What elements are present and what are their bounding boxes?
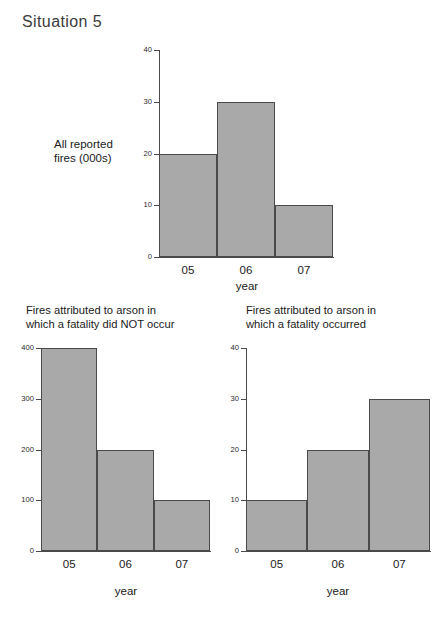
x-axis-category-label: 05 [270, 558, 283, 570]
x-axis-category-label: 06 [119, 558, 132, 570]
y-axis-tick-label: 40 [144, 46, 152, 54]
chart-arson-no-fatality: Fires attributed to arson in which a fat… [0, 300, 222, 619]
bar-06 [217, 102, 275, 257]
x-axis-title: year [327, 585, 349, 597]
y-axis-tick [36, 551, 41, 552]
y-axis-tick [241, 399, 246, 400]
x-axis-category-label: 06 [332, 558, 345, 570]
y-axis-tick [241, 450, 246, 451]
x-axis-category-label: 06 [240, 264, 253, 276]
x-axis-category-label: 07 [298, 264, 311, 276]
y-axis-tick-label: 100 [21, 496, 34, 504]
chart-caption: Fires attributed to arson in which a fat… [26, 304, 174, 331]
bar-05 [159, 154, 217, 258]
bar-07 [275, 205, 333, 257]
bar-06 [97, 450, 153, 552]
x-axis-line [246, 551, 431, 552]
chart-arson-fatality: Fires attributed to arson in which a fat… [222, 300, 444, 619]
y-axis-tick-label: 0 [30, 547, 34, 555]
y-axis-tick-label: 10 [144, 201, 152, 209]
bar-05 [41, 348, 97, 551]
y-axis-tick-label: 10 [231, 496, 239, 504]
y-axis-tick-label: 20 [144, 150, 152, 158]
y-axis-tick-label: 300 [21, 395, 34, 403]
x-axis-category-label: 07 [393, 558, 406, 570]
y-axis-tick-label: 30 [231, 395, 239, 403]
x-axis-category-label: 07 [175, 558, 188, 570]
bar-07 [369, 399, 430, 551]
bar-05 [246, 500, 307, 551]
y-axis-tick-label: 40 [231, 344, 239, 352]
chart-caption: Fires attributed to arson in which a fat… [246, 304, 376, 331]
y-axis-tick-label: 0 [235, 547, 239, 555]
y-axis-tick [154, 102, 159, 103]
y-axis-tick-label: 20 [231, 446, 239, 454]
x-axis-line [41, 551, 211, 552]
y-axis-tick [154, 50, 159, 51]
y-axis-tick [154, 257, 159, 258]
chart-side-label: All reported fires (000s) [54, 137, 113, 165]
y-axis-tick-label: 0 [148, 253, 152, 261]
x-axis-title: year [236, 280, 258, 292]
y-axis-tick-label: 30 [144, 98, 152, 106]
x-axis-category-label: 05 [63, 558, 76, 570]
plot-area-arson-fatality: 010203040050607 [246, 348, 430, 551]
plot-area-all-reported-fires: 010203040050607 [159, 50, 333, 257]
x-axis-title: year [115, 585, 137, 597]
plot-area-arson-no-fatality: 0100200300400050607 [41, 348, 210, 551]
chart-all-reported-fires: All reported fires (000s) 01020304005060… [0, 0, 444, 300]
x-axis-category-label: 05 [182, 264, 195, 276]
y-axis-tick-label: 200 [21, 446, 34, 454]
x-axis-line [159, 257, 334, 258]
bar-06 [307, 450, 368, 552]
y-axis-tick-label: 400 [21, 344, 34, 352]
y-axis-tick [241, 551, 246, 552]
y-axis-tick [241, 348, 246, 349]
bar-07 [154, 500, 210, 551]
